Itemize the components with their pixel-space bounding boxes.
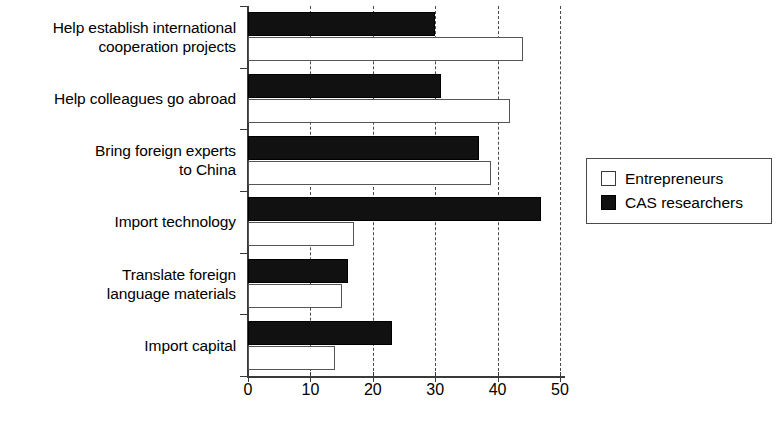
legend-label: Entrepreneurs (625, 170, 723, 187)
y-axis-tick (240, 129, 248, 130)
gridline (560, 6, 561, 376)
category-label: Translate foreign language materials (107, 265, 236, 303)
y-axis-tick (240, 314, 248, 315)
legend-label: CAS researchers (625, 194, 743, 211)
legend-item-cas-researchers: CAS researchers (601, 194, 743, 211)
gridline (498, 6, 499, 376)
gridline (435, 6, 436, 376)
category-label: Bring foreign experts to China (95, 141, 236, 179)
x-axis-line (247, 376, 565, 378)
bar-entrepreneurs (248, 284, 342, 308)
bar-cas-researchers (248, 321, 392, 345)
x-axis-tick-label: 20 (353, 380, 393, 399)
x-axis-tick-label: 10 (290, 380, 330, 399)
x-axis-tick-label: 40 (478, 380, 518, 399)
y-axis-tick (240, 68, 248, 69)
x-axis-tick-label: 0 (228, 380, 268, 399)
x-axis-tick-label: 30 (415, 380, 455, 399)
plot-area (248, 6, 565, 376)
category-label: Help colleagues go abroad (54, 89, 236, 108)
legend-item-entrepreneurs: Entrepreneurs (601, 170, 723, 187)
y-axis-tick (240, 253, 248, 254)
legend-swatch-icon (601, 171, 616, 186)
bar-cas-researchers (248, 74, 441, 98)
category-axis-labels: Help establish international cooperation… (0, 0, 242, 376)
bar-entrepreneurs (248, 161, 491, 185)
legend: Entrepreneurs CAS researchers (586, 158, 772, 224)
bar-entrepreneurs (248, 37, 523, 61)
bar-entrepreneurs (248, 99, 510, 123)
bar-entrepreneurs (248, 346, 335, 370)
bar-cas-researchers (248, 12, 435, 36)
y-axis-tick (240, 6, 248, 7)
bar-cas-researchers (248, 136, 479, 160)
y-axis-tick (240, 191, 248, 192)
category-label: Import capital (144, 336, 236, 355)
bar-entrepreneurs (248, 222, 354, 246)
bar-chart: Help establish international cooperation… (0, 0, 780, 422)
y-axis-tick (240, 376, 248, 377)
category-label: Help establish international cooperation… (53, 18, 236, 56)
bar-cas-researchers (248, 197, 541, 221)
legend-swatch-icon (601, 195, 616, 210)
bar-cas-researchers (248, 259, 348, 283)
category-label: Import technology (114, 212, 236, 231)
x-axis-tick-label: 50 (540, 380, 580, 399)
